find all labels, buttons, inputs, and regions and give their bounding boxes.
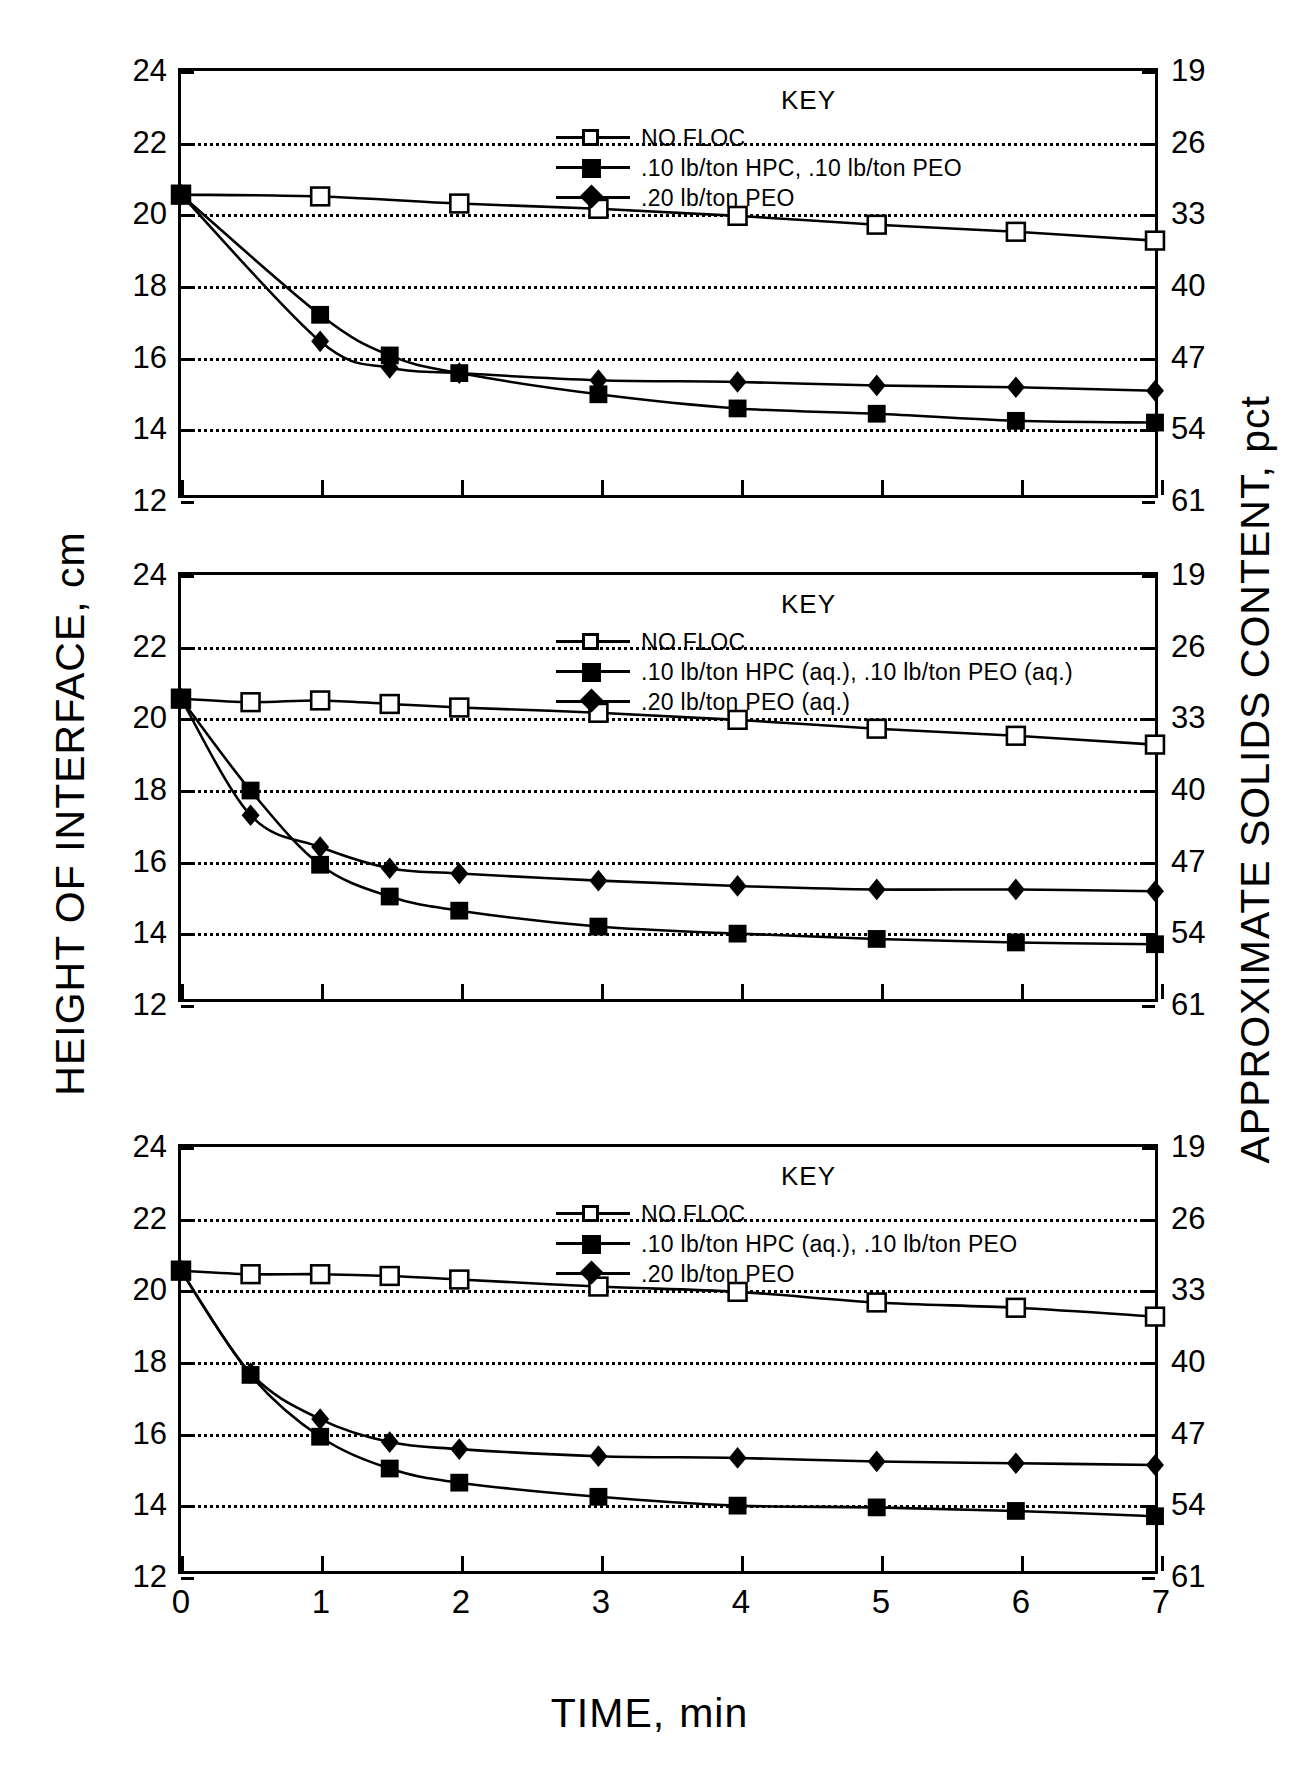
y2-tick-label: 61	[1171, 483, 1205, 519]
x-axis-title-text: TIME,	[551, 1690, 665, 1736]
data-point-filled-diamond	[311, 330, 329, 352]
data-point-open-square	[242, 693, 260, 711]
legend-marker-filled-square-icon	[556, 659, 630, 685]
legend-symbol	[582, 1205, 599, 1222]
y-tick-label: 16	[133, 844, 167, 880]
y-tick-label: 24	[133, 557, 167, 593]
data-point-open-square	[450, 699, 468, 717]
x-tick-label: 4	[732, 1583, 750, 1621]
data-point-filled-square	[242, 782, 260, 800]
y-tick-mark	[181, 1005, 194, 1008]
x-axis-title-unit: min	[679, 1690, 748, 1736]
y2-tick-label: 40	[1171, 772, 1205, 808]
data-point-open-square	[1146, 736, 1164, 754]
legend: NO FLOC.10 lb/ton HPC, .10 lb/ton PEO.20…	[556, 123, 962, 213]
legend-symbol	[582, 633, 599, 650]
plot-area: 1261145416471840203322262419KEYNO FLOC.1…	[178, 68, 1158, 498]
legend-marker-open-square-icon	[556, 629, 630, 655]
legend-marker-filled-square-icon	[556, 155, 630, 181]
data-point-filled-diamond	[589, 870, 607, 892]
legend-item[interactable]: NO FLOC	[556, 627, 1073, 657]
legend-symbol	[582, 159, 601, 178]
data-point-filled-square	[450, 902, 468, 920]
data-point-open-square	[311, 188, 329, 206]
data-point-filled-square	[1007, 934, 1025, 952]
y2-tick-label: 61	[1171, 1559, 1205, 1595]
y-tick-label: 24	[133, 53, 167, 89]
y-tick-label: 12	[133, 1559, 167, 1595]
y-tick-label: 14	[133, 915, 167, 951]
data-point-filled-square	[381, 1460, 399, 1478]
data-point-filled-square	[729, 925, 747, 943]
y2-tick-label: 40	[1171, 268, 1205, 304]
data-point-open-square	[450, 195, 468, 213]
left-axis-title: HEIGHT OF INTERFACE, cm	[47, 464, 94, 1164]
plot-area: 1261145416471840203322262419KEYNO FLOC.1…	[178, 572, 1158, 1002]
data-point-filled-square	[1007, 1502, 1025, 1520]
data-point-filled-square	[868, 1499, 886, 1517]
data-point-open-square	[868, 720, 886, 738]
key-title: KEY	[781, 1161, 836, 1192]
y2-tick-label: 54	[1171, 915, 1205, 951]
y2-tick-label: 26	[1171, 629, 1205, 665]
y-tick-label: 12	[133, 483, 167, 519]
data-point-filled-diamond	[381, 857, 399, 879]
data-series	[172, 184, 1164, 402]
data-point-filled-diamond	[450, 1438, 468, 1460]
legend-item[interactable]: .20 lb/ton PEO (aq.)	[556, 687, 1073, 717]
data-point-open-square	[1146, 1308, 1164, 1326]
data-point-filled-square	[589, 918, 607, 936]
key-title: KEY	[781, 85, 836, 116]
y-tick-label: 22	[133, 1201, 167, 1237]
legend-label: .10 lb/ton HPC (aq.), .10 lb/ton PEO (aq…	[641, 659, 1073, 686]
data-point-filled-square	[1146, 1507, 1164, 1525]
data-point-filled-square	[450, 1474, 468, 1492]
y2-tick-label: 47	[1171, 340, 1205, 376]
data-point-filled-square	[311, 856, 329, 874]
data-point-filled-diamond	[1146, 880, 1164, 902]
data-point-filled-diamond	[868, 879, 886, 901]
data-point-open-square	[868, 216, 886, 234]
legend-item[interactable]: .10 lb/ton HPC, .10 lb/ton PEO	[556, 153, 962, 183]
y-tick-label: 18	[133, 268, 167, 304]
data-point-filled-diamond	[729, 1447, 747, 1469]
legend-marker-open-square-icon	[556, 1201, 630, 1227]
data-point-open-square	[311, 692, 329, 710]
y2-tick-mark	[1142, 501, 1155, 504]
y2-tick-mark	[1142, 1005, 1155, 1008]
data-point-open-square	[381, 695, 399, 713]
legend-item[interactable]: NO FLOC	[556, 123, 962, 153]
x-axis-title: TIME,min	[0, 1690, 1299, 1737]
legend: NO FLOC.10 lb/ton HPC (aq.), .10 lb/ton …	[556, 627, 1073, 717]
legend-item[interactable]: .10 lb/ton HPC (aq.), .10 lb/ton PEO	[556, 1229, 1017, 1259]
y2-tick-label: 40	[1171, 1344, 1205, 1380]
y-tick-label: 20	[133, 700, 167, 736]
legend-label: NO FLOC	[641, 629, 745, 656]
data-point-filled-square	[311, 1428, 329, 1446]
y2-tick-label: 61	[1171, 987, 1205, 1023]
y2-tick-label: 33	[1171, 196, 1205, 232]
y-tick-label: 20	[133, 196, 167, 232]
data-point-filled-diamond	[589, 1445, 607, 1467]
y2-tick-label: 19	[1171, 53, 1205, 89]
legend-marker-open-square-icon	[556, 125, 630, 151]
legend-item[interactable]: .20 lb/ton PEO	[556, 1259, 1017, 1289]
legend-label: .20 lb/ton PEO	[641, 185, 795, 212]
legend-item[interactable]: .20 lb/ton PEO	[556, 183, 962, 213]
legend: NO FLOC.10 lb/ton HPC (aq.), .10 lb/ton …	[556, 1199, 1017, 1289]
legend-marker-filled-diamond-icon	[556, 185, 630, 211]
y-tick-label: 14	[133, 411, 167, 447]
data-point-open-square	[242, 1265, 260, 1283]
legend-item[interactable]: .10 lb/ton HPC (aq.), .10 lb/ton PEO (aq…	[556, 657, 1073, 687]
y2-tick-label: 26	[1171, 125, 1205, 161]
legend-label: .20 lb/ton PEO (aq.)	[641, 689, 850, 716]
data-point-open-square	[1007, 727, 1025, 745]
legend-label: NO FLOC	[641, 1201, 745, 1228]
x-tick-mark	[1161, 480, 1164, 495]
legend-item[interactable]: NO FLOC	[556, 1199, 1017, 1229]
data-point-filled-diamond	[1007, 376, 1025, 398]
data-point-filled-diamond	[868, 375, 886, 397]
data-point-filled-square	[729, 1497, 747, 1515]
y2-tick-label: 19	[1171, 557, 1205, 593]
legend-label: .10 lb/ton HPC, .10 lb/ton PEO	[641, 155, 962, 182]
